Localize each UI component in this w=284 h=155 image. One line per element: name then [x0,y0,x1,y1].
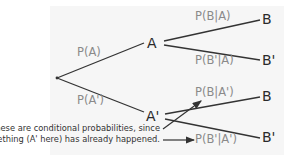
node-b-prime-lower: B' [262,130,275,144]
root-dot [56,77,59,80]
node-a-prime: A' [146,109,159,123]
node-a: A [147,36,157,50]
annotation-line-2: something (A' here) has already happened… [0,134,160,145]
edge-a-prime-b [165,97,260,114]
edge-label-p-b-prime-given-a-prime: P(B'|A') [195,134,237,146]
edge-label-p-b-given-a: P(B|A) [195,11,231,23]
edge-label-p-a-prime: P(A') [77,95,104,107]
node-b-upper: B [262,12,272,26]
node-b-lower: B [262,89,272,103]
edge-label-p-b-prime-given-a: P(B'|A) [195,55,234,67]
annotation-note: These are conditional probabilities, sin… [0,123,160,145]
edge-label-p-b-given-a-prime: P(B|A') [195,87,234,99]
node-b-prime-upper: B' [262,53,275,67]
edge-label-p-a: P(A) [77,47,101,59]
edge-a-b [164,20,260,41]
annotation-line-1: These are conditional probabilities, sin… [0,123,160,134]
